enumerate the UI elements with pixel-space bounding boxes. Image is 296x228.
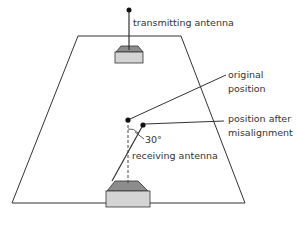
receiving-antenna-label: receiving antenna — [132, 150, 218, 161]
original-position-label-2: position — [228, 83, 266, 94]
misaligned-label-1: position after — [228, 113, 291, 124]
transmitting-antenna-label: transmitting antenna — [133, 17, 234, 28]
antenna-diagram: transmitting antenna 30° original positi… — [0, 0, 296, 228]
original-position-label-1: original — [228, 69, 264, 80]
misaligned-label-2: misalignment — [228, 127, 293, 138]
angle-label: 30° — [145, 134, 162, 145]
transmitting-antenna — [115, 8, 143, 64]
